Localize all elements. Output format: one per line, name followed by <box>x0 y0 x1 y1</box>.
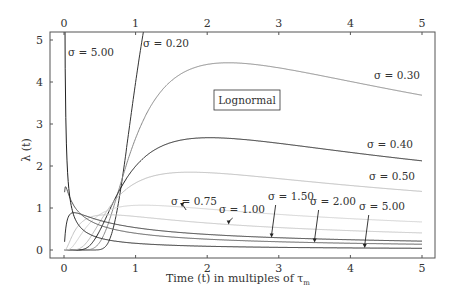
x-axis-label-sub: m <box>303 279 310 287</box>
annotation-arrowhead <box>313 239 317 243</box>
y-tick-label: 2 <box>36 160 43 173</box>
x-tick-label-bottom: 1 <box>132 262 139 275</box>
annotation-label: σ = 0.75 <box>171 195 217 207</box>
annotation-label: σ = 0.50 <box>369 170 415 182</box>
lognormal-box: Lognormal <box>214 90 280 110</box>
hazard-rate-chart: 001122334455012345 Lognormal λ (t) Time … <box>0 0 458 301</box>
annotation-arrow <box>315 210 319 240</box>
annotation-label: σ = 1.50 <box>268 190 314 202</box>
y-tick-label: 3 <box>36 118 43 131</box>
annotation-label: σ = 2.00 <box>310 195 356 207</box>
x-tick-label-top: 0 <box>61 17 68 30</box>
lognormal-box-label: Lognormal <box>218 94 276 106</box>
x-axis-label: Time (t) in multiples of τm <box>166 272 310 287</box>
series-line-sigma-0-4 <box>65 138 422 250</box>
x-tick-label-top: 4 <box>347 17 354 30</box>
x-tick-label-top: 5 <box>419 17 426 30</box>
annotation-label: σ = 0.20 <box>143 37 189 49</box>
x-axis-label-main: Time (t) in multiples of τ <box>166 272 303 285</box>
annotation-label: σ = 0.30 <box>374 69 420 81</box>
x-tick-label-top: 1 <box>132 17 139 30</box>
annotation-label: σ = 5.00 <box>359 200 405 212</box>
x-tick-label-top: 2 <box>204 17 211 30</box>
y-axis-label: λ (t) <box>20 138 33 161</box>
annotation-arrowhead <box>270 233 274 237</box>
y-tick-label: 4 <box>36 76 43 89</box>
x-tick-label-bottom: 0 <box>61 262 68 275</box>
y-tick-label: 5 <box>36 34 43 47</box>
y-tick-label: 1 <box>36 202 43 215</box>
annotation-label: σ = 1.00 <box>219 203 265 215</box>
x-tick-label-top: 3 <box>275 17 282 30</box>
annotation-label: σ = 5.00 <box>68 46 114 58</box>
x-tick-label-bottom: 4 <box>347 262 354 275</box>
annotation-arrowhead <box>363 244 367 248</box>
annotation-arrow <box>272 205 276 234</box>
x-tick-label-bottom: 5 <box>419 262 426 275</box>
annotations-group: σ = 5.00σ = 0.20σ = 0.30σ = 0.40σ = 0.50… <box>68 37 420 248</box>
annotation-label: σ = 0.40 <box>367 138 413 150</box>
y-tick-label: 0 <box>36 244 43 257</box>
